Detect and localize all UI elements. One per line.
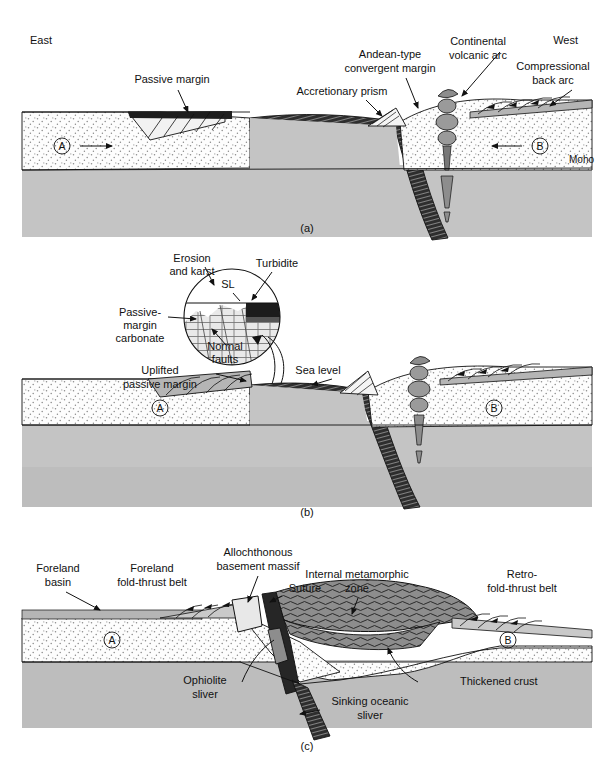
accretionary-prism-b	[340, 371, 378, 395]
label-accretionary-prism: Accretionary prism	[296, 85, 387, 97]
label-back-arc-line1: Compressional	[516, 60, 589, 72]
label-internal-zone-line1: Internal metamorphic	[305, 568, 409, 580]
label-foreland-basin-line2: basin	[45, 576, 71, 588]
panel-a: A B East West Passive margin Accretionar…	[0, 0, 615, 245]
svg-text:B: B	[536, 140, 543, 152]
panel-a-caption: (a)	[300, 222, 313, 234]
label-moho: Moho	[569, 154, 594, 165]
label-suture: Suture	[289, 582, 321, 594]
label-andean-type-line1: Andean-type	[359, 48, 421, 60]
mantle-layer-b	[22, 421, 592, 467]
label-carbonate-line3: carbonate	[116, 332, 165, 344]
panel-c-caption: (c)	[301, 740, 314, 752]
label-allochthonous-line2: basement massif	[216, 560, 300, 572]
label-carbonate-line2: margin	[123, 319, 157, 331]
label-sinking-line2: sliver	[357, 709, 383, 721]
allochthonous-basement-massif-c	[232, 596, 262, 632]
label-fold-thrust-line1: Foreland	[130, 562, 173, 574]
inset-turbidite	[246, 303, 280, 317]
passive-margin-sediment-a	[128, 111, 232, 119]
label-turbidite: Turbidite	[256, 257, 298, 269]
label-ophiolite-line1: Ophiolite	[183, 674, 226, 686]
label-erosion-line1: Erosion	[173, 252, 210, 264]
lower-gray-b	[22, 463, 592, 507]
panel-c: A B Foreland basin Foreland fold-thrust …	[0, 522, 615, 757]
label-normal-faults-line1: Normal	[207, 340, 242, 352]
label-ophiolite-line2: sliver	[192, 688, 218, 700]
panel-b: A B Erosion and karst Turbidite SL Passi…	[0, 245, 615, 522]
panel-b-caption: (b)	[300, 506, 313, 518]
label-normal-faults-line2: faults	[212, 353, 239, 365]
label-internal-zone-line2: zone	[345, 582, 369, 594]
label-west: West	[553, 34, 578, 46]
label-back-arc-line2: back arc	[532, 74, 574, 86]
label-sea-level: Sea level	[295, 364, 340, 376]
label-thickened-crust: Thickened crust	[460, 675, 538, 687]
label-passive-margin: Passive margin	[134, 73, 209, 85]
label-uplifted-line1: Uplifted	[141, 364, 178, 376]
label-erosion-line2: and karst	[169, 265, 214, 277]
label-volcanic-arc-line2: volcanic arc	[449, 49, 508, 61]
svg-text:A: A	[108, 634, 115, 646]
label-carbonate-line1: Passive-	[119, 306, 162, 318]
svg-text:A: A	[58, 140, 65, 152]
label-uplifted-line2: passive margin	[123, 378, 197, 390]
label-east: East	[30, 34, 52, 46]
label-retro-line2: fold-thrust belt	[487, 582, 557, 594]
panel-a-diagram: A B East West Passive margin Accretionar…	[0, 0, 615, 245]
plate-b-marker-c: B	[500, 632, 516, 648]
label-retro-line1: Retro-	[507, 568, 538, 580]
label-volcanic-arc-line1: Continental	[450, 35, 506, 47]
label-fold-thrust-line2: fold-thrust belt	[117, 576, 187, 588]
label-andean-type-line2: convergent margin	[344, 62, 435, 74]
accretionary-prism-a	[368, 108, 406, 126]
label-sl: SL	[221, 278, 234, 290]
panel-c-diagram: A B Foreland basin Foreland fold-thrust …	[0, 522, 615, 757]
label-sinking-line1: Sinking oceanic	[331, 695, 409, 707]
svg-text:A: A	[156, 402, 163, 414]
label-allochthonous-line1: Allochthonous	[223, 546, 293, 558]
svg-text:B: B	[490, 402, 497, 414]
panel-b-diagram: A B Erosion and karst Turbidite SL Passi…	[0, 245, 615, 522]
svg-text:B: B	[504, 634, 511, 646]
label-foreland-basin-line1: Foreland	[36, 562, 79, 574]
